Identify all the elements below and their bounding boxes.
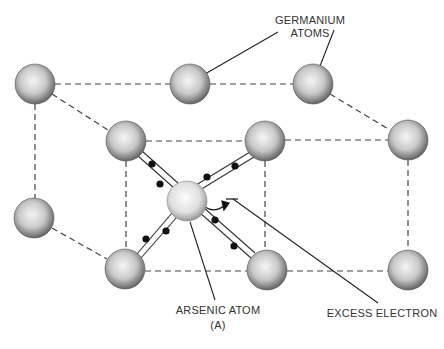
- germanium-atom: [170, 64, 210, 104]
- germanium-atom: [293, 64, 333, 104]
- excess-electron-text: EXCESS ELECTRON: [326, 307, 438, 320]
- germanium-atom: [106, 121, 146, 161]
- germanium-label-line2: ATOMS: [262, 27, 358, 40]
- germanium-atom: [388, 250, 428, 290]
- germanium-atoms-label: GERMANIUM ATOMS: [262, 14, 358, 40]
- arsenic-atom-label: ARSENIC ATOM (A): [168, 304, 268, 332]
- arsenic-label-line2: (A): [168, 319, 268, 332]
- germanium-atom: [15, 64, 55, 104]
- germanium-label-line1: GERMANIUM: [262, 14, 358, 27]
- germanium-atom: [388, 120, 428, 160]
- excess-electron-label: EXCESS ELECTRON: [326, 307, 438, 320]
- arsenic-atom: [167, 181, 207, 221]
- germanium-atom: [247, 250, 287, 290]
- germanium-atom: [14, 198, 54, 238]
- germanium-atom: [245, 121, 285, 161]
- arsenic-label-line1: ARSENIC ATOM: [168, 304, 268, 317]
- excess-electron-marker: [205, 199, 238, 210]
- crystal-lattice-diagram: [0, 0, 444, 349]
- germanium-atom: [105, 249, 145, 289]
